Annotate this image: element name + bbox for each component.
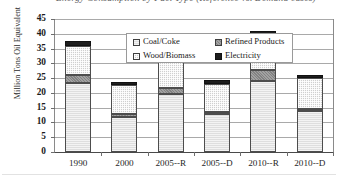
x-tick-mark bbox=[101, 152, 102, 156]
bar-segment bbox=[65, 83, 91, 152]
legend-label: Coal/Coke bbox=[143, 37, 180, 46]
bar-segment bbox=[65, 75, 91, 82]
bar-segment bbox=[297, 111, 323, 152]
plot-area: 051015202530354045 199020002005--R2005--… bbox=[54, 19, 334, 153]
y-tick-label: 0 bbox=[20, 147, 46, 156]
y-tick-label: 20 bbox=[20, 88, 46, 97]
x-tick-mark bbox=[194, 152, 195, 156]
bar-group bbox=[55, 19, 101, 152]
legend-row-2: Wood/BiomassElectricity bbox=[127, 49, 294, 63]
bar-segment bbox=[204, 80, 230, 84]
y-tick-label: 25 bbox=[20, 73, 46, 82]
x-tick-label: 2010--D bbox=[280, 158, 338, 168]
bar-segment bbox=[65, 41, 91, 45]
bar-segment bbox=[297, 78, 323, 109]
y-tick-mark bbox=[51, 152, 55, 153]
x-tick-mark bbox=[240, 152, 241, 156]
bar-segment bbox=[111, 82, 137, 85]
figure-bottom-rule bbox=[2, 174, 336, 175]
x-tick-mark bbox=[333, 152, 334, 156]
y-tick-label: 45 bbox=[20, 14, 46, 23]
y-tick-label: 5 bbox=[20, 132, 46, 141]
y-tick-label: 15 bbox=[20, 103, 46, 112]
chart-legend: Coal/CokeRefined Products Wood/BiomassEl… bbox=[126, 33, 293, 63]
bar-segment bbox=[111, 117, 137, 152]
x-tick-mark bbox=[148, 152, 149, 156]
legend-swatch-icon bbox=[133, 39, 140, 46]
bar-segment bbox=[250, 70, 276, 81]
bar-segment bbox=[111, 85, 137, 114]
figure-title-strip: Energy Consumption by Fuel Type (Referen… bbox=[0, 0, 338, 9]
x-tick-mark bbox=[287, 152, 288, 156]
bar-segment bbox=[65, 46, 91, 76]
legend-label: Wood/Biomass bbox=[143, 51, 195, 60]
legend-label: Electricity bbox=[225, 51, 261, 60]
bar-segment bbox=[111, 114, 137, 118]
bar-segment bbox=[158, 88, 184, 95]
bar-segment bbox=[204, 114, 230, 152]
figure-title: Energy Consumption by Fuel Type (Referen… bbox=[56, 0, 316, 3]
bar-segment bbox=[297, 75, 323, 78]
bar-segment bbox=[250, 81, 276, 152]
bar-segment bbox=[204, 112, 230, 115]
y-tick-label: 30 bbox=[20, 58, 46, 67]
legend-swatch-icon bbox=[133, 53, 140, 60]
y-tick-label: 10 bbox=[20, 117, 46, 126]
y-tick-label: 35 bbox=[20, 44, 46, 53]
legend-swatch-icon bbox=[215, 53, 222, 60]
bar-segment bbox=[158, 94, 184, 152]
bar-segment bbox=[297, 109, 323, 111]
legend-row-1: Coal/CokeRefined Products bbox=[127, 35, 294, 49]
legend-swatch-icon bbox=[215, 39, 222, 46]
chart-figure: Energy Consumption by Fuel Type (Referen… bbox=[0, 0, 338, 178]
legend-label: Refined Products bbox=[225, 37, 284, 46]
bar-segment bbox=[204, 84, 230, 112]
y-tick-label: 40 bbox=[20, 29, 46, 38]
